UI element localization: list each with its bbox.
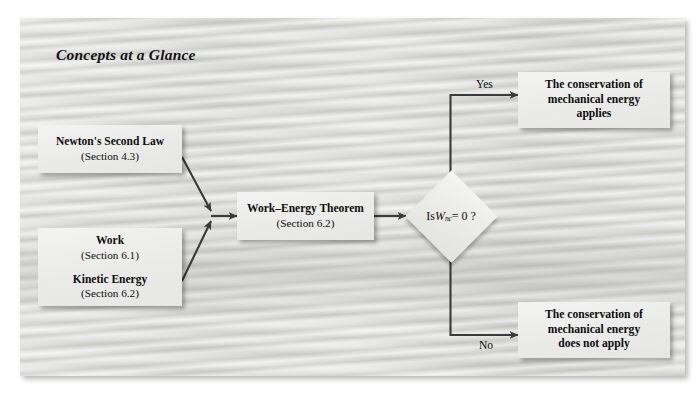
conservation-not-applies-line-3: does not apply <box>558 337 630 352</box>
decision-label: Is Wnc = 0 ? <box>405 170 497 262</box>
work-energy-theorem-heading: Work–Energy Theorem <box>247 201 364 216</box>
conservation-applies-line-3: applies <box>577 107 612 122</box>
kinetic-energy-heading: Kinetic Energy <box>73 272 147 287</box>
conservation-not-applies-line-1: The conservation of <box>545 308 643 323</box>
node-decision-wnc: Is Wnc = 0 ? <box>405 170 497 262</box>
node-conservation-applies: The conservation of mechanical energy ap… <box>518 72 670 128</box>
edge-label-no: No <box>479 339 493 351</box>
conservation-applies-line-2: mechanical energy <box>548 93 640 108</box>
work-section: (Section 6.1) <box>81 248 139 262</box>
decision-prefix: Is <box>426 209 435 224</box>
newtons-second-law-section: (Section 4.3) <box>81 149 139 163</box>
page-title: Concepts at a Glance <box>56 46 196 64</box>
node-newtons-second-law: Newton's Second Law (Section 4.3) <box>38 125 182 173</box>
node-work-kinetic-energy: Work (Section 6.1) Kinetic Energy (Secti… <box>38 228 182 306</box>
work-energy-theorem-section: (Section 6.2) <box>277 216 335 230</box>
kinetic-energy-section: (Section 6.2) <box>81 286 139 300</box>
work-heading: Work <box>96 233 124 248</box>
conservation-not-applies-line-2: mechanical energy <box>548 323 640 338</box>
newtons-second-law-heading: Newton's Second Law <box>56 134 164 149</box>
node-work-energy-theorem: Work–Energy Theorem (Section 6.2) <box>237 192 374 240</box>
node-conservation-not-applies: The conservation of mechanical energy do… <box>518 302 670 358</box>
conservation-applies-line-1: The conservation of <box>545 78 643 93</box>
decision-symbol: W <box>435 209 445 224</box>
edge-label-yes: Yes <box>476 78 493 90</box>
decision-suffix: = 0 ? <box>452 209 476 224</box>
decision-subscript: nc <box>445 214 452 223</box>
concepts-at-a-glance-figure: Concepts at a Glance Newton's Second Law… <box>0 0 700 396</box>
